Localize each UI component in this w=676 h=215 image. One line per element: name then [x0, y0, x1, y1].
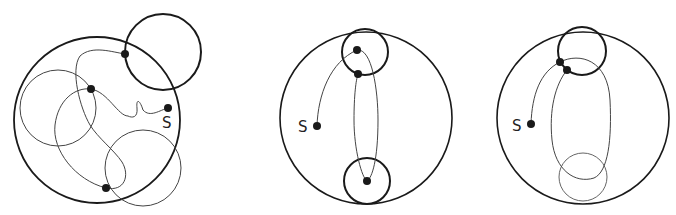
- start-point-marker: [527, 120, 535, 128]
- outer-circle: [497, 32, 669, 204]
- panel-3: S: [497, 27, 669, 204]
- panel-2: S: [280, 29, 452, 204]
- trajectory-path: [317, 50, 378, 181]
- point-marker: [353, 46, 361, 54]
- point-marker: [121, 50, 129, 58]
- start-point-marker: [313, 122, 321, 130]
- panel-1: S: [14, 14, 201, 206]
- diagram-canvas: S S S: [0, 0, 676, 215]
- small-circle-top: [342, 29, 388, 75]
- small-circle-left: [20, 70, 96, 146]
- point-marker: [363, 177, 371, 185]
- start-label: S: [298, 118, 308, 136]
- start-label: S: [162, 114, 172, 132]
- start-point-marker: [164, 104, 172, 112]
- outer-circle: [14, 37, 180, 203]
- trajectory-path: [55, 50, 168, 189]
- small-circle-bottom-right: [105, 130, 181, 206]
- point-marker: [87, 85, 95, 93]
- small-circle-bottom: [559, 153, 607, 201]
- point-marker: [556, 58, 564, 66]
- small-circle-top-right: [125, 14, 201, 90]
- start-label: S: [512, 117, 522, 135]
- point-marker: [563, 66, 571, 74]
- point-marker: [102, 184, 110, 192]
- trajectory-path: [531, 58, 610, 179]
- point-marker: [354, 70, 362, 78]
